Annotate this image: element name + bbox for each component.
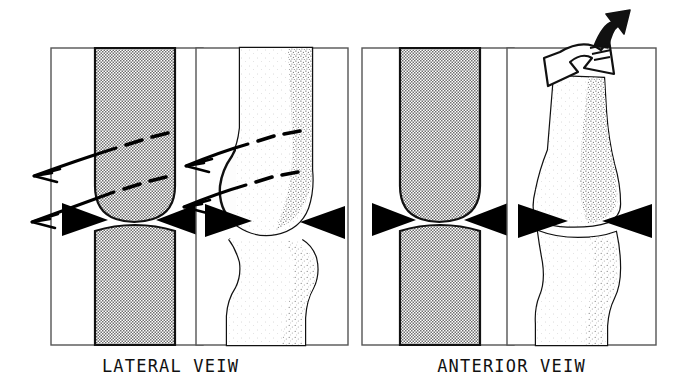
panel-lateral [32, 48, 348, 348]
figure-canvas [0, 0, 682, 390]
caption-lateral-view: LATERAL VEIW [0, 356, 341, 376]
lateral-limb-subpanel [32, 48, 203, 345]
caption-anterior-view: ANTERIOR VEIW [341, 356, 682, 376]
knee-joint-figure: LATERAL VEIW ANTERIOR VEIW [0, 0, 682, 390]
anterior-rotation-solid-arrow [594, 10, 630, 48]
anterior-limb-subpanel [362, 48, 514, 345]
anterior-limb-lower-shade [400, 225, 480, 345]
lateral-bone-subpanel [184, 48, 348, 348]
anterior-bone-subpanel [507, 10, 656, 348]
anterior-limb-upper-shade [400, 48, 480, 222]
panel-anterior [362, 10, 656, 348]
lateral-limb-lower-shade [95, 225, 175, 345]
